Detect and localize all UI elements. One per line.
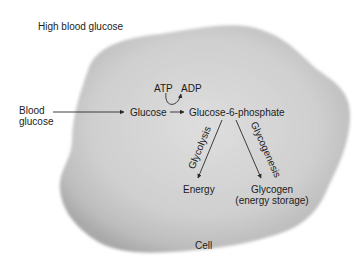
input-label-blood: Blood <box>19 105 45 116</box>
context-label: High blood glucose <box>38 21 123 32</box>
adp-label: ADP <box>181 83 202 94</box>
energy-node: Energy <box>183 184 215 195</box>
input-label-glucose: glucose <box>19 116 53 127</box>
cell-label: Cell <box>195 240 212 251</box>
g6p-node: Glucose-6-phosphate <box>189 107 285 118</box>
glycogen-storage-note: (energy storage) <box>232 195 312 206</box>
atp-label: ATP <box>154 83 173 94</box>
cell-body-shape <box>0 0 362 279</box>
glucose-node: Glucose <box>130 107 167 118</box>
glycogen-node: Glycogen <box>232 184 312 195</box>
glucose-metabolism-diagram: High blood glucose Blood glucose ATP ADP… <box>0 0 362 279</box>
